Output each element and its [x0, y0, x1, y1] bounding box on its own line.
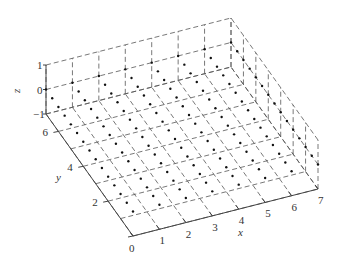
data-point [245, 151, 247, 153]
data-point [259, 126, 261, 128]
x-tick-label: 3 [212, 221, 218, 233]
data-point [135, 127, 137, 129]
data-point [261, 85, 263, 87]
data-point [242, 59, 244, 61]
data-point [180, 147, 182, 149]
data-point [266, 135, 268, 137]
data-point [206, 140, 208, 142]
data-point [132, 210, 134, 212]
data-point [137, 86, 139, 88]
data-point [272, 144, 274, 146]
data-point [252, 159, 254, 161]
x-tick-label: 2 [186, 228, 192, 240]
data-point [126, 202, 128, 204]
data-point [109, 134, 111, 136]
data-point [248, 67, 250, 69]
data-point [284, 161, 286, 163]
data-point [280, 111, 282, 113]
data-point [304, 146, 306, 148]
data-point [102, 125, 104, 127]
data-point [225, 166, 227, 168]
data-point [119, 193, 121, 195]
data-point [129, 118, 131, 120]
z-tick-label: −1 [33, 108, 45, 120]
data-point [255, 76, 257, 78]
data-point [188, 114, 190, 116]
data-point [267, 94, 269, 96]
data-point [101, 167, 103, 169]
data-point [239, 142, 241, 144]
y-tick-label: 2 [92, 196, 98, 208]
data-point [278, 153, 280, 155]
data-point [157, 70, 159, 72]
data-point [205, 181, 207, 183]
data-point [141, 136, 143, 138]
data-point [236, 50, 238, 52]
data-point [115, 143, 117, 145]
data-point [292, 128, 294, 130]
data-point [146, 186, 148, 188]
data-point [208, 98, 210, 100]
data-point [127, 160, 129, 162]
data-point [192, 164, 194, 166]
data-point [233, 133, 235, 135]
data-point [133, 169, 135, 171]
data-point [147, 145, 149, 147]
data-point [70, 123, 72, 125]
data-point [241, 100, 243, 102]
data-point [264, 177, 266, 179]
data-point [90, 108, 92, 110]
data-point [113, 184, 115, 186]
data-point [286, 120, 288, 122]
3d-scatter-plot: 01234567246−101 x y z [0, 0, 341, 261]
data-point [96, 116, 98, 118]
data-point [178, 188, 180, 190]
data-point [163, 79, 165, 81]
data-point [116, 101, 118, 103]
data-point [199, 173, 201, 175]
data-point [154, 153, 156, 155]
data-point [82, 141, 84, 143]
data-point [203, 48, 205, 50]
x-tick-label: 4 [239, 214, 245, 226]
data-point [183, 63, 185, 65]
data-point [273, 102, 275, 104]
data-point [63, 114, 65, 116]
data-point [189, 72, 191, 74]
data-point [123, 110, 125, 112]
x-tick-label: 7 [318, 194, 324, 206]
data-point [155, 112, 157, 114]
y-axis-label: y [55, 171, 61, 183]
data-point [57, 106, 59, 108]
data-point [174, 138, 176, 140]
data-point [247, 109, 249, 111]
data-point [213, 149, 215, 151]
data-point [219, 157, 221, 159]
data-point [166, 171, 168, 173]
data-point [185, 197, 187, 199]
data-point [84, 99, 86, 101]
data-point [317, 163, 319, 165]
data-point [227, 124, 229, 126]
data-point [158, 204, 160, 206]
data-point [130, 77, 132, 79]
data-point [202, 90, 204, 92]
data-point [258, 168, 260, 170]
data-point [210, 57, 212, 59]
data-point [290, 170, 292, 172]
data-point [238, 183, 240, 185]
data-point [110, 92, 112, 94]
z-tick-label: 1 [37, 59, 43, 71]
data-point [151, 61, 153, 63]
data-point [228, 83, 230, 85]
data-point [51, 97, 53, 99]
grid-lines [46, 18, 318, 236]
z-tick-label: 0 [37, 84, 43, 96]
data-point [88, 149, 90, 151]
data-point [172, 179, 174, 181]
data-point [77, 90, 79, 92]
data-point [168, 129, 170, 131]
data-point [143, 94, 145, 96]
y-tick-label: 6 [42, 126, 48, 138]
data-point [76, 132, 78, 134]
